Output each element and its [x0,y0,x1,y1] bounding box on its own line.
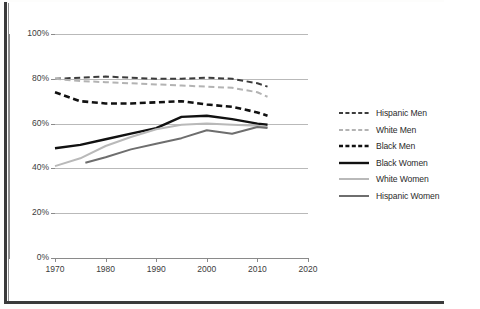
x-tick-mark [257,258,258,262]
legend-swatch-icon [339,191,369,201]
legend-swatch-icon [339,125,369,135]
legend-item-label: White Women [376,174,429,184]
legend-item-label: Hispanic Women [376,191,439,201]
legend-item[interactable]: White Women [339,171,451,188]
line-chart: 0%20%40%60%80%100% 197019801990200020102… [9,2,444,302]
legend-item[interactable]: Black Women [339,155,451,172]
plot-area [55,34,308,258]
page-border-left [4,2,7,304]
y-tick-label: 80% [32,73,49,83]
legend-item[interactable]: White Men [339,122,451,139]
y-tick-label: 100% [27,28,49,38]
y-tick-label: 0% [37,252,49,262]
x-tick-mark [207,258,208,262]
x-tick-mark [106,258,107,262]
legend-item[interactable]: Hispanic Men [339,105,451,122]
chart-legend: Hispanic MenWhite MenBlack MenBlack Wome… [339,105,451,204]
legend-item[interactable]: Hispanic Women [339,188,451,205]
series-line [55,79,268,97]
y-axis-line [9,34,10,259]
x-tick-label: 1990 [136,264,176,274]
legend-item-label: White Men [376,125,416,135]
legend-swatch-icon [339,108,369,118]
legend-swatch-icon [339,158,369,168]
y-tick-label: 60% [32,118,49,128]
legend-swatch-icon [339,141,369,151]
scanned-page: 0%20%40%60%80%100% 197019801990200020102… [0,0,480,309]
legend-item[interactable]: Black Men [339,138,451,155]
series-line [55,124,268,167]
x-tick-label: 2020 [288,264,328,274]
x-axis: 197019801990200020102020 [55,258,309,278]
x-axis-line [55,258,309,259]
x-tick-mark [55,258,56,262]
x-tick-mark [308,258,309,262]
x-tick-label: 1980 [86,264,126,274]
legend-item-label: Black Women [376,158,428,168]
series-line [85,127,267,163]
legend-item-label: Hispanic Men [376,108,427,118]
x-tick-label: 1970 [35,264,75,274]
page-gutter: s h t o s a r s a h f n s y t v h a 2 [444,0,480,309]
legend-item-label: Black Men [376,141,415,151]
y-tick-label: 40% [32,162,49,172]
series-line [55,92,268,116]
series-lines [55,34,308,258]
x-tick-label: 2000 [187,264,227,274]
x-tick-mark [156,258,157,262]
x-tick-label: 2010 [237,264,277,274]
y-tick-label: 20% [32,207,49,217]
legend-swatch-icon [339,174,369,184]
